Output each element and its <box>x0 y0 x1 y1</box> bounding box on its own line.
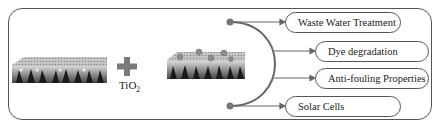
node-dot-bottom <box>227 103 234 110</box>
application-anti-fouling: Anti-fouling Properties <box>315 68 429 89</box>
node-dot-top <box>227 19 234 26</box>
plus-icon <box>117 57 137 76</box>
membrane-icon <box>12 57 107 83</box>
tio2-label: TiO2 <box>119 79 140 94</box>
application-solar-cells: Solar Cells <box>285 96 401 117</box>
application-dye-degradation: Dye degradation <box>315 41 429 62</box>
tio2-membrane-icon <box>167 49 245 79</box>
application-waste-water: Waste Water Treatment <box>285 12 401 33</box>
